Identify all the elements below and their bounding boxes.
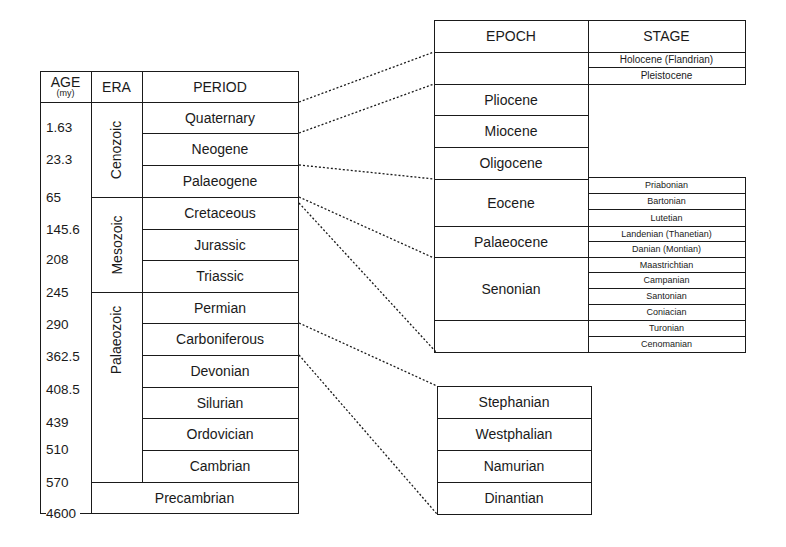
table-right-border bbox=[591, 386, 592, 515]
stage-dinantian: Dinantian bbox=[437, 482, 591, 514]
carboniferous-stage-table: Stephanian Westphalian Namurian Dinantia… bbox=[0, 0, 786, 547]
table-bottom-border bbox=[437, 514, 592, 515]
stage-stephanian: Stephanian bbox=[437, 386, 591, 418]
stage-westphalian: Westphalian bbox=[437, 418, 591, 450]
stage-namurian: Namurian bbox=[437, 450, 591, 482]
